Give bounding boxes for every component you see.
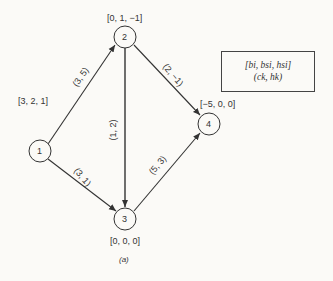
node-2-attrs: [0, 1, −1] <box>107 13 142 23</box>
node-1-attrs: [3, 2, 1] <box>18 96 48 106</box>
edge-3-4 <box>134 133 200 211</box>
edge-2-3-label: (1, 2) <box>108 119 118 140</box>
node-1-label: 1 <box>37 146 42 156</box>
edge-1-2 <box>48 45 115 144</box>
legend-edge-format: (ck, hk) <box>222 71 314 83</box>
legend-node-format: [bi, bsi, hsi] <box>222 59 314 71</box>
legend-box: [bi, bsi, hsi] (ck, hk) <box>221 51 315 92</box>
node-3-label: 3 <box>122 214 127 224</box>
edge-2-4 <box>134 45 200 115</box>
figure-caption: (a) <box>119 255 129 264</box>
node-2-label: 2 <box>122 32 127 42</box>
node-3-attrs: [0, 0, 0] <box>110 236 140 246</box>
node-4-label: 4 <box>206 119 211 129</box>
network-graph <box>0 0 333 281</box>
node-4-attrs: [−5, 0, 0] <box>200 99 235 109</box>
